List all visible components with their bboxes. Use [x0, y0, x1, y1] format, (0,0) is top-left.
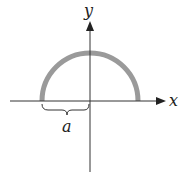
x-axis-label: x — [169, 91, 178, 110]
x-axis-arrow-icon — [156, 97, 166, 105]
y-axis-arrow-icon — [86, 21, 94, 31]
diagram-canvas: y x a — [0, 0, 190, 180]
radius-brace — [42, 104, 89, 115]
radius-label: a — [62, 117, 72, 136]
y-axis-label: y — [83, 1, 94, 20]
diagram-svg: y x a — [0, 0, 190, 180]
